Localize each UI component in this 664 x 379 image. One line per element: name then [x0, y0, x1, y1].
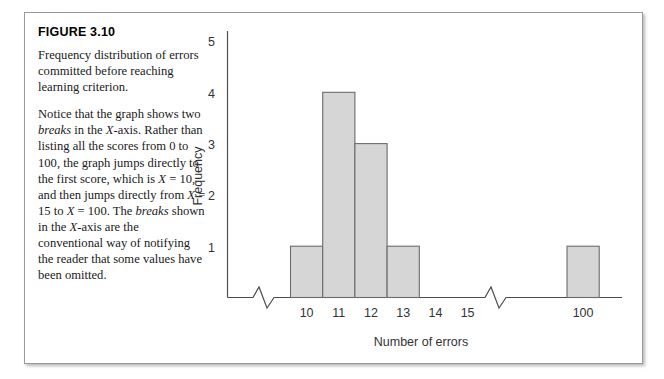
- caption-paragraph-1: Frequency distribution of errors committ…: [38, 47, 206, 95]
- y-tick-label-5: 5: [208, 35, 215, 49]
- y-tick-label-1: 1: [208, 241, 215, 255]
- x-tick-label-13: 13: [396, 306, 410, 320]
- x-tick-label-11: 11: [332, 306, 345, 320]
- bar-100: [567, 246, 599, 297]
- y-tick-label-4: 4: [208, 87, 215, 101]
- figure-number-label: FIGURE 3.10: [38, 25, 206, 39]
- x-tick-label-12: 12: [364, 306, 378, 320]
- x-tick-label-15: 15: [461, 306, 475, 320]
- bar-10: [291, 246, 323, 297]
- bar-11: [323, 92, 355, 297]
- x-axis-line-with-breaks: [228, 287, 623, 308]
- figure-caption: FIGURE 3.10 Frequency distribution of er…: [38, 25, 206, 294]
- x-axis-title: Number of errors: [374, 335, 468, 349]
- bar-13: [387, 246, 419, 297]
- caption-paragraph-2: Notice that the graph shows two breaks i…: [38, 106, 206, 283]
- y-tick-label-3: 3: [208, 138, 215, 152]
- figure-panel: FIGURE 3.10 Frequency distribution of er…: [24, 12, 643, 364]
- x-tick-label-100: 100: [573, 306, 594, 320]
- x-tick-label-10: 10: [300, 306, 314, 320]
- y-tick-label-2: 2: [208, 189, 215, 203]
- x-tick-label-14: 14: [428, 306, 442, 320]
- bar-12: [355, 144, 387, 298]
